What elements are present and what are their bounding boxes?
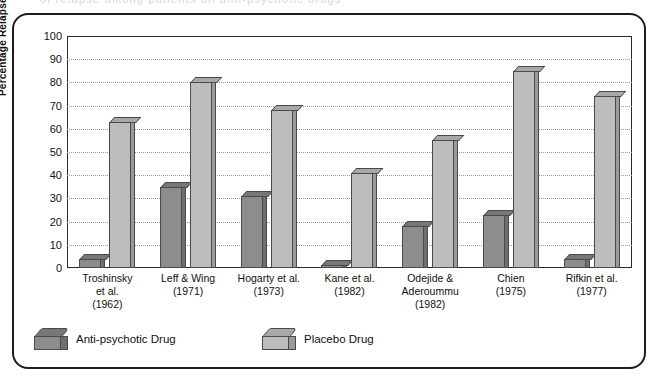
swatch-side-face	[60, 336, 68, 350]
y-axis-tick-label: 30	[32, 192, 62, 204]
bar	[513, 71, 539, 268]
bar	[79, 259, 105, 268]
bar-front-face	[190, 82, 212, 268]
y-axis-tick-label: 20	[32, 216, 62, 228]
bar	[483, 215, 509, 268]
bar-front-face	[109, 122, 131, 268]
bar-group	[148, 36, 229, 268]
bar	[241, 196, 267, 268]
bar	[564, 259, 590, 268]
legend-swatch	[262, 328, 296, 350]
bar	[160, 187, 186, 268]
bar-front-face	[432, 140, 454, 268]
bar-front-face	[402, 226, 424, 268]
bar-group	[228, 36, 309, 268]
chart-legend: Anti-psychotic DrugPlacebo Drug	[34, 328, 594, 358]
bar	[271, 110, 297, 268]
bar	[432, 140, 458, 268]
bar-front-face	[241, 196, 263, 268]
bar-front-face	[271, 110, 293, 268]
y-axis-tick-label: 60	[32, 123, 62, 135]
swatch-front-face	[262, 336, 289, 350]
plot-area	[67, 36, 632, 268]
chart-figure: of relapse among patients on anti-psycho…	[0, 0, 659, 381]
y-axis-tick-label: 90	[32, 53, 62, 65]
y-axis-title: Percentage Relapse	[0, 0, 8, 96]
bar-front-face	[321, 265, 343, 268]
swatch-side-face	[288, 336, 296, 350]
scan-artifact-text: of relapse among patients on anti-psycho…	[40, 0, 460, 7]
label-line: (1977)	[541, 285, 642, 298]
bar	[321, 265, 347, 268]
legend-item[interactable]: Anti-psychotic Drug	[34, 328, 176, 350]
swatch-front-face	[34, 336, 61, 350]
y-axis-tick-label: 50	[32, 146, 62, 158]
bar-group	[309, 36, 390, 268]
bar-front-face	[594, 96, 616, 268]
bar-front-face	[160, 187, 182, 268]
bar-front-face	[513, 71, 535, 268]
bar	[402, 226, 428, 268]
y-axis-tick-labels: 1009080706050403020100	[0, 36, 67, 268]
x-axis-category-label: Rifkin et al.(1977)	[541, 272, 642, 298]
bar	[351, 173, 377, 268]
bar-front-face	[483, 215, 505, 268]
label-line: (1982)	[380, 298, 481, 311]
bar-front-face	[79, 259, 101, 268]
bar-group	[67, 36, 148, 268]
label-line: Rifkin et al.	[541, 272, 642, 285]
bar	[594, 96, 620, 268]
y-axis-tick-label: 70	[32, 100, 62, 112]
legend-swatch	[34, 328, 68, 350]
y-axis-tick-label: 40	[32, 169, 62, 181]
legend-item[interactable]: Placebo Drug	[262, 328, 374, 350]
bar	[109, 122, 135, 268]
y-axis-tick-label: 100	[32, 30, 62, 42]
bar-group	[471, 36, 552, 268]
bar-group	[390, 36, 471, 268]
bar-front-face	[564, 259, 586, 268]
bar-group	[551, 36, 632, 268]
bar	[190, 82, 216, 268]
legend-label: Placebo Drug	[304, 333, 374, 345]
legend-label: Anti-psychotic Drug	[76, 333, 176, 345]
y-axis-tick-label: 80	[32, 76, 62, 88]
y-axis-tick-label: 10	[32, 239, 62, 251]
x-axis-category-labels: Troshinskyet al.(1962)Leff & Wing(1971)H…	[67, 272, 632, 322]
label-line: (1962)	[57, 298, 158, 311]
bar-front-face	[351, 173, 373, 268]
